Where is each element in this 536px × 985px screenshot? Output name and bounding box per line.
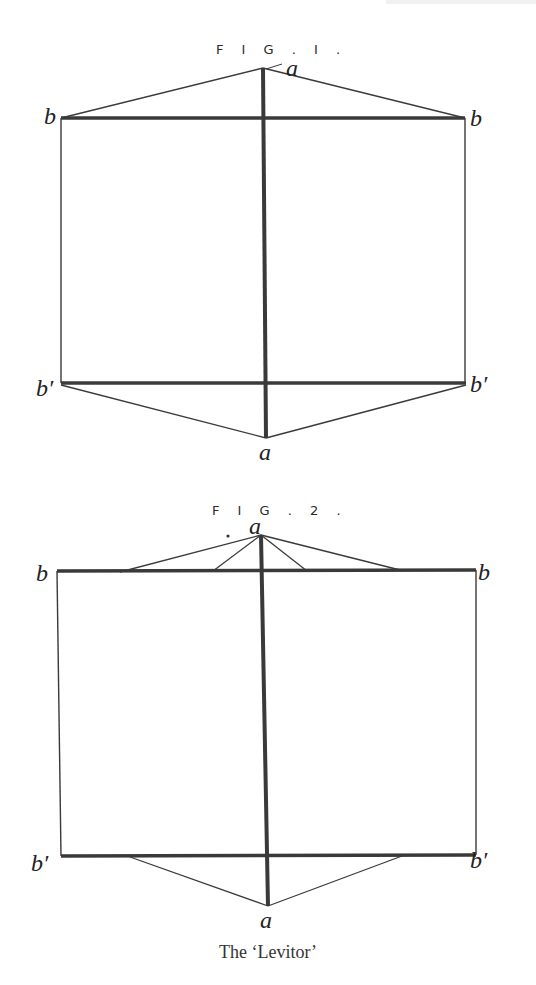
fig1-label-top-left-b: b: [44, 104, 56, 128]
fig2-title: F I G . 2 .: [212, 503, 348, 518]
diagram-stage: F I G . I . a b b b′ b′ a F I G . 2 . a …: [0, 0, 536, 985]
figure-caption: The ‘Levitor’: [0, 942, 536, 963]
fig1-label-bottom-left-b-prime: b′: [36, 376, 53, 400]
fig1-label-top-a: a: [286, 56, 298, 80]
fig1-kite: [61, 64, 466, 438]
fig2-label-bottom-a: a: [260, 908, 272, 932]
fig2-label-top-right-b: b: [478, 560, 490, 584]
kite-drawings: [0, 0, 536, 985]
fig2-label-bottom-left-b-prime: b′: [31, 851, 48, 875]
fig2-label-top-a: a: [249, 514, 261, 538]
fig1-label-top-right-b: b: [470, 106, 482, 130]
fig1-label-bottom-a: a: [259, 440, 271, 464]
fig2-kite: [57, 534, 476, 906]
fig1-label-bottom-right-b-prime: b′: [470, 372, 487, 396]
fig2-label-top-left-b: b: [36, 561, 48, 585]
fig1-title: F I G . I .: [216, 42, 347, 57]
fig2-label-bottom-right-b-prime: b′: [470, 848, 487, 872]
